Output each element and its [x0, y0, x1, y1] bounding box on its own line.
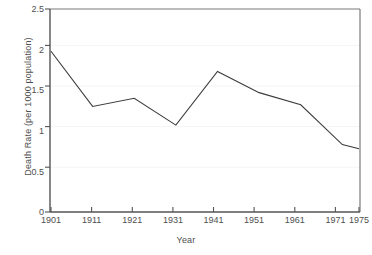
x-axis-ticks — [51, 207, 359, 212]
gridlines — [50, 45, 360, 167]
y-axis-ticks — [45, 9, 50, 212]
data-line-death-rate — [51, 51, 359, 148]
chart-figure: Death Rate (per 1000 population) 2.5 2 1… — [0, 0, 372, 255]
x-axis-title: Year — [0, 236, 372, 245]
plot-frame — [50, 9, 360, 212]
x-tick-label: 1975 — [334, 216, 372, 225]
